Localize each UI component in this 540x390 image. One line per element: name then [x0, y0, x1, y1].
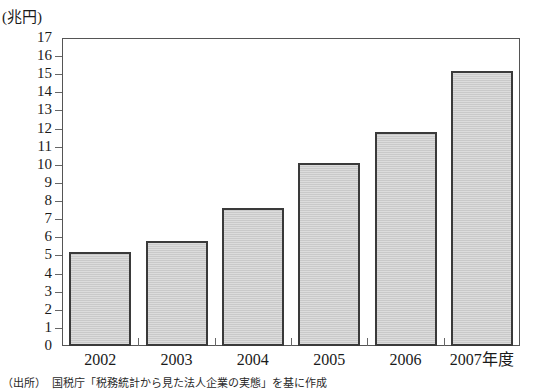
x-axis-tick-mark: [367, 338, 368, 346]
y-axis-tick-mark: [55, 255, 62, 256]
y-axis-tick-label: 16: [37, 46, 52, 65]
y-axis-tick-label: 0: [45, 336, 53, 355]
y-axis-tick-mark: [55, 274, 62, 275]
y-axis-tick-label: 6: [45, 227, 53, 246]
y-axis-tick-label: 15: [37, 64, 52, 83]
y-axis-tick-mark: [55, 201, 62, 202]
y-axis-tick-mark: [55, 237, 62, 238]
y-axis-tick-mark: [55, 56, 62, 57]
x-axis-tick-mark: [138, 338, 139, 346]
y-axis-tick-mark: [55, 292, 62, 293]
x-axis-category-label: 2006: [367, 349, 443, 371]
y-axis-tick-mark: [55, 183, 62, 184]
y-axis-tick-mark: [55, 219, 62, 220]
y-axis-tick-label: 2: [45, 300, 53, 319]
y-axis-tick-label: 9: [45, 173, 53, 192]
y-axis-tick-mark: [55, 110, 62, 111]
bar: [69, 252, 131, 346]
y-axis-tick-mark: [55, 165, 62, 166]
y-axis-tick-mark: [55, 74, 62, 75]
x-axis-category-label: 2005: [291, 349, 367, 371]
y-axis-tick-mark: [55, 129, 62, 130]
y-axis-tick-label: 1: [45, 318, 53, 337]
bar: [375, 132, 437, 346]
bar: [451, 71, 513, 346]
y-axis-tick-label: 7: [45, 209, 53, 228]
x-axis-category-label: 2004: [215, 349, 291, 371]
y-axis-tick-label: 4: [45, 264, 53, 283]
x-axis-category-label: 2007年度: [444, 349, 520, 371]
bar: [222, 208, 284, 346]
y-axis-tick-label: 12: [37, 119, 52, 138]
source-note: （出所） 国税庁「税務統計から見た法人企業の実態」を基に作成: [2, 377, 538, 390]
x-axis-labels: 200220032004200520062007年度: [62, 349, 520, 377]
x-axis-tick-mark: [291, 338, 292, 346]
x-axis-category-label: 2002: [62, 349, 138, 371]
bars-layer: [62, 38, 520, 346]
y-axis-tick-label: 3: [45, 282, 53, 301]
y-axis-tick-label: 5: [45, 245, 53, 264]
y-axis-tick-label: 8: [45, 191, 53, 210]
y-axis-tick-label: 13: [37, 100, 52, 119]
y-axis-tick-mark: [55, 310, 62, 311]
bar: [298, 163, 360, 346]
bar: [146, 241, 208, 346]
y-axis-tick-label: 10: [37, 155, 52, 174]
x-axis-category-label: 2003: [138, 349, 214, 371]
y-axis: 01234567891011121314151617: [0, 0, 62, 386]
y-axis-tick-mark: [55, 147, 62, 148]
y-axis-tick-label: 11: [38, 137, 52, 156]
x-axis-tick-mark: [444, 338, 445, 346]
y-axis-tick-label: 17: [37, 28, 52, 47]
x-axis-tick-mark: [215, 338, 216, 346]
y-axis-tick-mark: [55, 92, 62, 93]
y-axis-tick-label: 14: [37, 82, 52, 101]
y-axis-tick-mark: [55, 328, 62, 329]
